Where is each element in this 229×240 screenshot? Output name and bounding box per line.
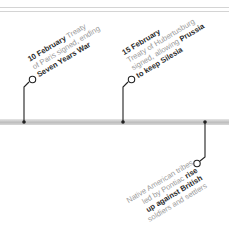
event-marker-1[interactable] (22, 76, 36, 123)
event-marker-1-circle-icon (29, 76, 35, 82)
event-marker-2-circle-icon (128, 76, 134, 82)
event-marker-2[interactable] (121, 76, 135, 123)
event-marker-3[interactable] (194, 120, 207, 167)
